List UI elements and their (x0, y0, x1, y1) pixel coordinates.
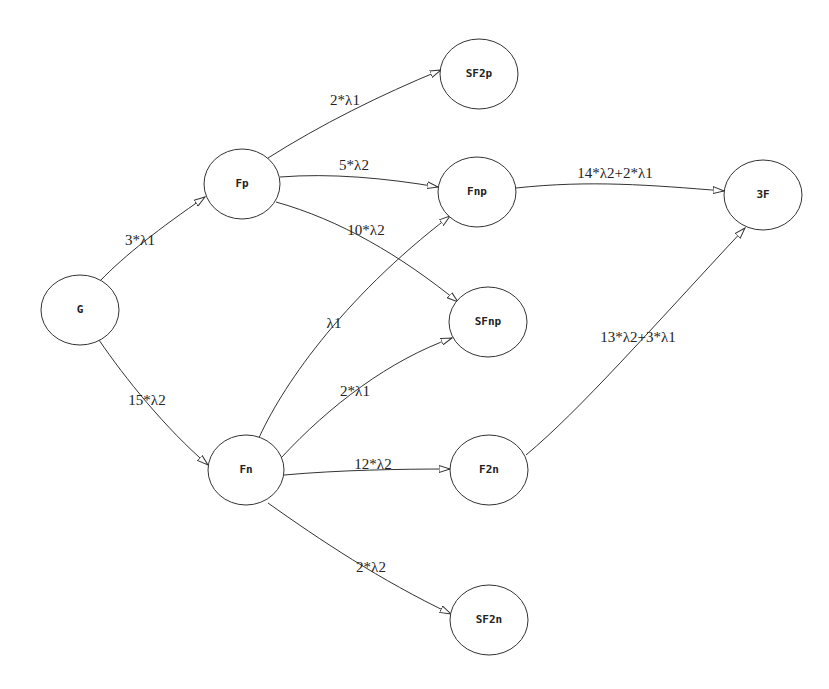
node-label: Fn (239, 463, 252, 476)
node-label: SF2n (476, 613, 503, 626)
node-sf2n: SF2n (450, 585, 528, 655)
node-sfnp: SFnp (449, 287, 527, 357)
node-sf2p: SF2p (440, 39, 518, 109)
edge-label-g-to-fn: 15*λ2 (128, 392, 165, 408)
edge-fnp-to-3f (516, 184, 724, 191)
node-label: F2n (479, 463, 499, 476)
node-label: 3F (756, 188, 769, 201)
node-g: G (41, 275, 119, 345)
edge-fp-to-fnp (280, 176, 438, 187)
node-label: SF2p (466, 67, 493, 80)
node-fp: Fp (204, 149, 280, 219)
edge-labels-layer: 3*λ115*λ22*λ15*λ210*λ2λ12*λ112*λ22*λ214*… (125, 92, 676, 575)
node-label: Fnp (467, 185, 487, 198)
node-3f: 3F (724, 160, 802, 230)
edge-label-fnp-to-3f: 14*λ2+2*λ1 (577, 165, 653, 181)
edge-label-fn-to-sfnp: 2*λ1 (340, 383, 370, 399)
edge-label-fn-to-fnp: λ1 (327, 315, 342, 331)
edge-fp-to-sfnp (276, 202, 458, 302)
nodes-layer: GFpFnSF2pFnpSFnpF2nSF2n3F (41, 39, 802, 655)
state-transition-diagram: GFpFnSF2pFnpSFnpF2nSF2n3F 3*λ115*λ22*λ15… (0, 0, 829, 689)
edge-label-fn-to-f2n: 12*λ2 (354, 456, 391, 472)
node-fnp: Fnp (438, 157, 516, 227)
edge-label-g-to-fp: 3*λ1 (125, 232, 155, 248)
edge-label-fp-to-sf2p: 2*λ1 (330, 92, 360, 108)
node-f2n: F2n (450, 435, 528, 505)
edge-label-f2n-to-3f: 13*λ2+3*λ1 (600, 329, 676, 345)
edge-label-fp-to-fnp: 5*λ2 (339, 157, 369, 173)
node-label: G (77, 303, 84, 316)
edge-fp-to-sf2p (268, 70, 441, 158)
edge-fn-to-fnp (258, 216, 450, 440)
node-label: SFnp (475, 315, 502, 328)
edge-label-fn-to-sf2n: 2*λ2 (356, 559, 386, 575)
node-fn: Fn (208, 435, 284, 505)
node-label: Fp (235, 177, 249, 190)
edge-label-fp-to-sfnp: 10*λ2 (347, 222, 384, 238)
